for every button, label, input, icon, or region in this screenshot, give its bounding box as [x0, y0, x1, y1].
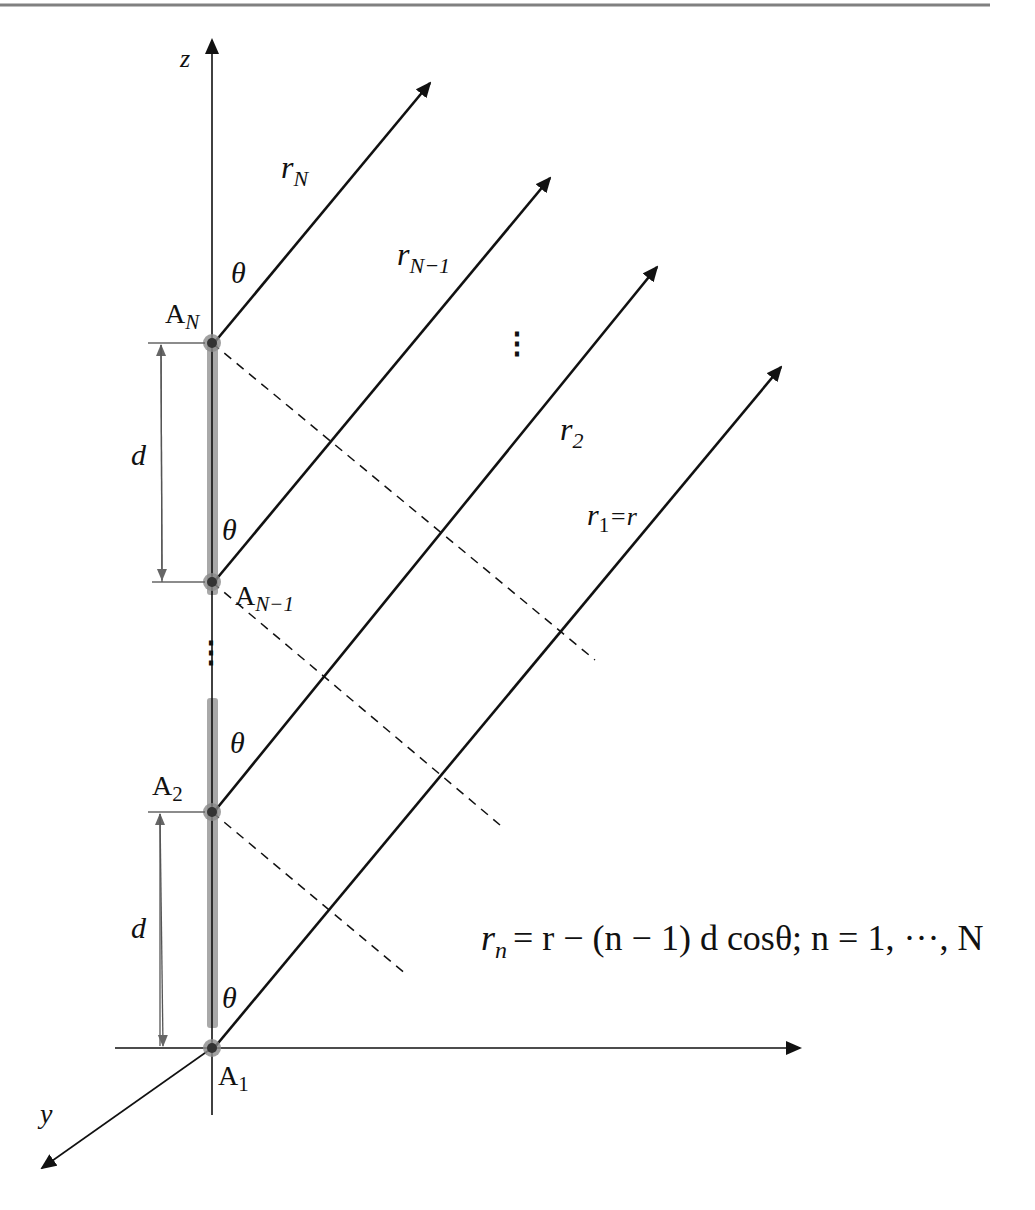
- theta-label-1: θ: [222, 981, 237, 1014]
- spacing-label-d-lower: d: [131, 911, 147, 944]
- ellipsis-vertical-rays: ⋮: [502, 326, 532, 359]
- theta-label-2: θ: [230, 726, 245, 759]
- ray-label-r-2: r2: [560, 411, 583, 453]
- wavefront-dashed-3: [212, 812, 407, 975]
- path-difference-equation: rn= r − (n − 1) d cosθ; n = 1, ···, N: [481, 918, 983, 963]
- theta-label-N: θ: [231, 256, 246, 289]
- ray-r-N-minus-1: [214, 178, 550, 582]
- array-geometry-diagram: z y rN rN−1 r2 r1=r θ θ θ θ AN AN−1 A2 A…: [0, 0, 1035, 1210]
- theta-label-N-minus-1: θ: [222, 513, 237, 546]
- element-label-A-N-minus-1: AN−1: [235, 580, 294, 616]
- ray-label-r-1: r1=r: [587, 498, 638, 537]
- element-label-A-N: AN: [165, 298, 200, 334]
- z-axis-label: z: [179, 44, 190, 73]
- y-axis-label: y: [37, 1098, 53, 1129]
- element-label-A-2: A2: [152, 770, 183, 806]
- ray-r-2: [214, 267, 657, 812]
- spacing-dimension-lower: [148, 812, 205, 1046]
- spacing-dimension-upper: [148, 343, 205, 582]
- ray-r-N: [214, 83, 430, 343]
- element-label-A-1: A1: [218, 1060, 249, 1096]
- y-axis: [42, 1048, 212, 1168]
- ray-label-r-N: rN: [281, 149, 309, 191]
- wavefront-dashed-2: [212, 582, 500, 825]
- spacing-label-d-upper: d: [131, 438, 147, 471]
- ray-label-r-N-minus-1: rN−1: [397, 236, 450, 278]
- ellipsis-vertical-elements: ⋮: [196, 635, 226, 668]
